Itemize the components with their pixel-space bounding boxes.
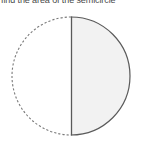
unshaded-left-semicircle	[12, 17, 71, 135]
circle-diagram	[0, 0, 143, 147]
figure-root: find the area of the semicircle	[0, 0, 143, 147]
shaded-right-semicircle	[71, 17, 130, 135]
